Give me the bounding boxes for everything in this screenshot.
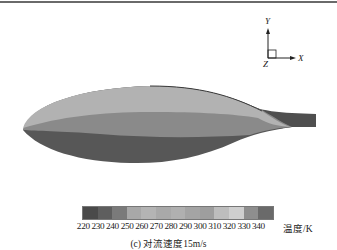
tick-label: 340 [251,221,266,231]
z-axis-label: Z [263,59,269,69]
x-axis-label: X [297,53,304,63]
colorbar-segment [244,207,259,219]
tick-label: 280 [164,221,179,231]
tick-label: 310 [207,221,222,231]
tick-label: 290 [178,221,193,231]
tick-label: 240 [105,221,120,231]
axes-triad: Y X Z [263,16,304,69]
y-axis-label: Y [265,16,271,26]
tick-label: 250 [120,221,135,231]
colorbar-segment [229,207,244,219]
tick-label: 320 [222,221,237,231]
temperature-colorbar [82,206,274,220]
colorbar-segment [83,207,98,219]
colorbar-segment [127,207,142,219]
tick-label: 330 [237,221,252,231]
colorbar-ticks: 220 230 240 250 260 270 280 290 300 310 … [76,221,266,231]
colorbar-segment [98,207,113,219]
tick-label: 300 [193,221,208,231]
colorbar-segment [185,207,200,219]
figure-caption: (c) 对流速度15m/s [0,236,337,250]
colorbar-segment [112,207,127,219]
tick-label: 260 [134,221,149,231]
tick-label: 230 [91,221,106,231]
colorbar-segment [200,207,215,219]
colorbar-segment [171,207,186,219]
colorbar-unit-label: 温度/K [283,221,313,235]
colorbar-segment [141,207,156,219]
tick-label: 220 [76,221,91,231]
tick-label: 270 [149,221,164,231]
colorbar-segment [258,207,273,219]
colorbar-segment [214,207,229,219]
colorbar-segment [156,207,171,219]
